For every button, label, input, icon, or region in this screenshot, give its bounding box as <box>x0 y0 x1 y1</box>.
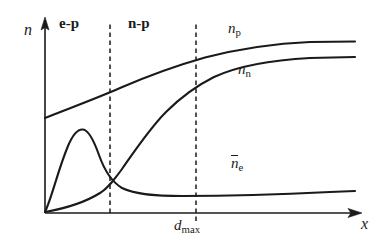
region-label-ep: e-p <box>59 16 79 31</box>
x-tick-label-d-max-subscript: max <box>182 223 201 235</box>
axis-x-label: x <box>361 216 368 232</box>
curve-label-n-e-main: n <box>231 155 239 171</box>
curve-n-p <box>45 42 355 119</box>
overbar-group: n <box>231 156 239 171</box>
curve-label-n-p: np <box>228 21 241 36</box>
x-tick-label-d-max-main: d <box>174 217 182 233</box>
curve-label-n-n-subscript: n <box>246 67 251 79</box>
x-tick-label-d-max: dmax <box>174 218 200 233</box>
plot-canvas <box>0 0 382 250</box>
region-label-np: n-p <box>128 16 150 31</box>
curve-label-n-e-bar: ne <box>231 156 243 171</box>
curve-label-n-e-subscript: e <box>239 161 244 173</box>
curve-label-n-n-main: n <box>238 61 246 77</box>
curve-n-e-bar <box>45 129 355 212</box>
curve-n-n <box>45 57 355 212</box>
axis-y-label: n <box>24 22 32 38</box>
region-dividers <box>110 22 196 221</box>
axes-group <box>41 17 362 218</box>
figure-schematic-carrier-density: n x e-p n-p np nn ne dmax <box>0 0 382 250</box>
overbar-stroke <box>231 155 238 156</box>
curve-label-n-p-main: n <box>228 20 236 36</box>
curve-label-n-n: nn <box>238 62 251 77</box>
curves-group <box>45 42 355 213</box>
curve-label-n-p-subscript: p <box>236 26 241 38</box>
